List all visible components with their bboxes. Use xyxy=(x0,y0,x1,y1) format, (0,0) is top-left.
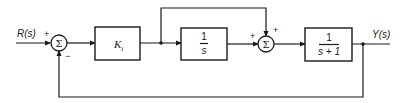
output-signal: Y(s) xyxy=(352,29,390,46)
output-label: Y(s) xyxy=(372,29,390,40)
summing-junction-1: Σ − xyxy=(51,35,70,61)
integrator-block: 1 s xyxy=(181,28,227,60)
plant-denominator: s + 1 xyxy=(318,46,340,57)
sum2-sigma: Σ xyxy=(262,39,269,50)
sum1-minus-sign: − xyxy=(65,51,70,61)
gain-block: Ki xyxy=(95,27,140,60)
sum2-top-plus-sign: + xyxy=(273,25,278,35)
input-signal: R(s) + xyxy=(16,28,50,43)
integrator-denominator: s xyxy=(202,45,207,56)
sum1-sigma: Σ xyxy=(55,38,62,49)
integrator-numerator: 1 xyxy=(201,31,207,42)
input-label: R(s) xyxy=(17,28,36,39)
sum1-plus-sign: + xyxy=(44,29,49,39)
summing-junction-2: Σ + xyxy=(258,25,278,52)
sum2-left-plus-sign: + xyxy=(250,31,255,41)
plant-block: 1 s + 1 xyxy=(305,28,352,61)
plant-numerator: 1 xyxy=(326,32,332,43)
block-diagram: R(s) + Σ − Ki 1 s + Σ + 1 s + 1 xyxy=(0,0,407,103)
